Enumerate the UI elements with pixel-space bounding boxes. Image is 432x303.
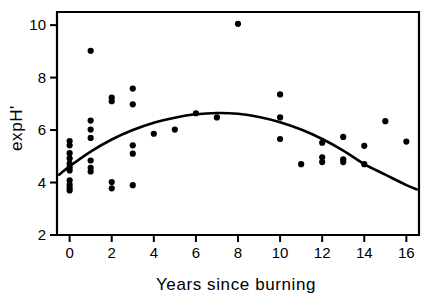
data-point [361,161,367,167]
data-point [277,91,283,97]
data-point [319,140,325,146]
data-point [319,159,325,165]
data-point [67,142,73,148]
data-point [130,142,136,148]
data-point [151,131,157,137]
data-point [193,110,199,116]
x-tick-label: 10 [272,244,289,261]
data-point [67,187,73,193]
data-point [277,136,283,142]
y-tick-label: 10 [29,16,46,33]
data-point [298,161,304,167]
scatter-plot: 0246810121416 246810 Years since burning… [0,0,432,303]
data-point [130,182,136,188]
data-point [130,101,136,107]
y-tick-label: 4 [38,174,46,191]
x-tick-label: 4 [150,244,158,261]
x-axis-title: Years since burning [156,275,316,294]
data-point [214,114,220,120]
x-tick-label: 2 [108,244,116,261]
data-point [88,48,94,54]
data-point [88,126,94,132]
data-point [109,185,115,191]
y-tick-label: 2 [38,226,46,243]
data-point [130,86,136,92]
x-tick-label: 8 [234,244,242,261]
data-point [130,151,136,157]
data-point [109,98,115,104]
chart-figure: 0246810121416 246810 Years since burning… [0,0,432,303]
x-tick-label: 0 [65,244,73,261]
data-point [340,159,346,165]
data-point [67,167,73,173]
data-point [340,134,346,140]
y-axis-title: expH' [7,105,26,151]
data-point [382,118,388,124]
data-point [88,135,94,141]
data-point [88,118,94,124]
data-point [235,21,241,27]
data-point [88,157,94,163]
y-tick-label: 8 [38,69,46,86]
x-tick-label: 16 [398,244,415,261]
data-point [88,168,94,174]
data-point [277,114,283,120]
data-point [172,126,178,132]
y-tick-label: 6 [38,121,46,138]
data-point [403,139,409,145]
x-tick-label: 6 [192,244,200,261]
x-tick-label: 14 [356,244,373,261]
x-tick-label: 12 [314,244,331,261]
data-point [361,143,367,149]
data-point [109,179,115,185]
